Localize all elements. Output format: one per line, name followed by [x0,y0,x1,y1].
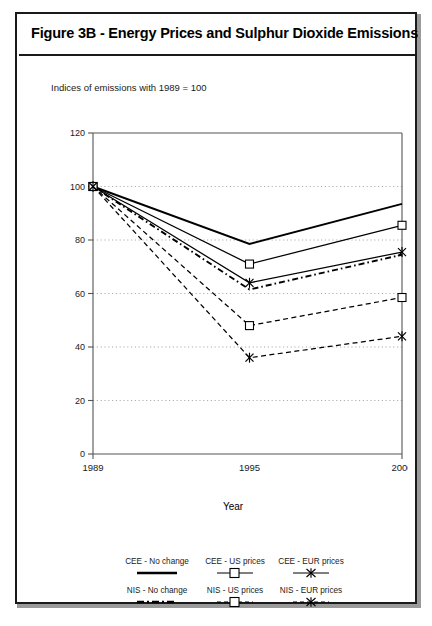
y-tick-label: 100 [70,182,85,192]
chart-legend: CEE - No change CEE - US prices CEE - EU… [117,557,349,613]
series-nis-us-prices [89,183,406,330]
x-axis-title: Year [17,501,432,512]
y-tick-label: 120 [70,128,85,138]
legend-label: CEE - EUR prices [271,557,351,566]
legend-item-5: NIS - EUR prices [271,586,351,609]
x-tick-label: 1989 [82,462,103,473]
legend-swatch-line-thick [117,567,197,580]
legend-item-0: CEE - No change [117,557,197,580]
line-chart: 020406080100120198919952000 [58,109,408,479]
series-cee-eur-prices [89,182,406,288]
figure-page: Figure 3B - Energy Prices and Sulphur Di… [0,0,432,626]
legend-label: NIS - US prices [195,586,275,595]
title-divider [19,54,415,56]
y-tick-label: 20 [75,396,85,406]
y-tick-label: 60 [75,289,85,299]
legend-item-4: NIS - US prices [195,586,275,609]
chart-subtitle: Indices of emissions with 1989 = 100 [51,82,207,93]
x-tick-label: 2000 [391,462,408,473]
legend-item-2: CEE - EUR prices [271,557,351,580]
legend-label: NIS - No change [117,586,197,595]
legend-swatch-square-dashed [195,596,275,609]
x-tick-label: 1995 [239,462,260,473]
legend-item-1: CEE - US prices [195,557,275,580]
legend-label: CEE - No change [117,557,197,566]
legend-swatch-star [271,567,351,580]
legend-item-3: NIS - No change [117,586,197,609]
legend-swatch-square [195,567,275,580]
chart-plot-area: 020406080100120198919952000 [58,109,408,479]
legend-swatch-star-dashed [271,596,351,609]
series-cee-us-prices [89,183,406,269]
legend-swatch-line-dashdot [117,596,197,609]
legend-label: CEE - US prices [195,557,275,566]
figure-frame: Figure 3B - Energy Prices and Sulphur Di… [15,12,417,604]
page-title: Figure 3B - Energy Prices and Sulphur Di… [31,25,403,41]
y-tick-label: 40 [75,342,85,352]
y-tick-label: 80 [75,235,85,245]
legend-label: NIS - EUR prices [271,586,351,595]
y-tick-label: 0 [80,449,85,459]
